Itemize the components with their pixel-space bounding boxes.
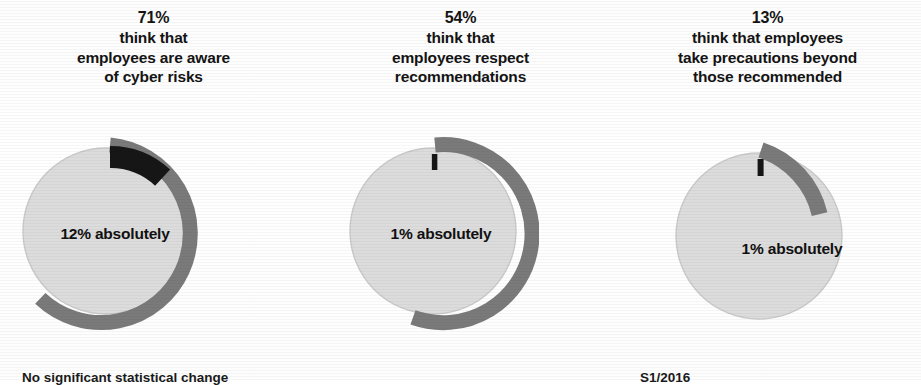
donut-center-label: 12% absolutely [13,225,217,243]
panel-heading-percent: 71% [0,8,307,28]
panel-heading-line-3: of cyber risks [0,67,307,87]
panel-heading-line-2: employees respect [307,48,614,68]
donut-chart-respect-recommendations: 1% absolutely [335,132,539,336]
panel-heading-line-2: employees are aware [0,48,307,68]
panel-heading-line-3: recommendations [307,67,614,87]
donut-disc [676,153,842,319]
panel-heading-line-1: think that [0,28,307,48]
panel-heading: 71% think that employees are aware of cy… [0,8,307,87]
panel-heading-percent: 13% [614,8,921,28]
donut-center-label: 1% absolutely [339,225,543,243]
panel-heading: 13% think that employees take precaution… [614,8,921,87]
panel-heading-line-1: think that [307,28,614,48]
panel-heading-line-1: think that employees [614,28,921,48]
panel-heading: 54% think that employees respect recomme… [307,8,614,87]
stat-panel-precautions-beyond-recommended: 13% think that employees take precaution… [614,0,921,380]
panel-heading-line-2: take precautions beyond [614,48,921,68]
donut-chart-aware-of-cyber-risks: 12% absolutely [8,132,212,336]
donut-center-label: 1% absolutely [690,240,894,258]
donut-chart-precautions-beyond-recommended: 1% absolutely [664,140,868,344]
stat-panel-respect-recommendations: 54% think that employees respect recomme… [307,0,614,380]
panel-heading-percent: 54% [307,8,614,28]
panel-heading-line-3: those recommended [614,67,921,87]
stat-panel-aware-of-cyber-risks: 71% think that employees are aware of cy… [0,0,307,380]
footnote-statistical-change: No significant statistical change [22,370,228,385]
